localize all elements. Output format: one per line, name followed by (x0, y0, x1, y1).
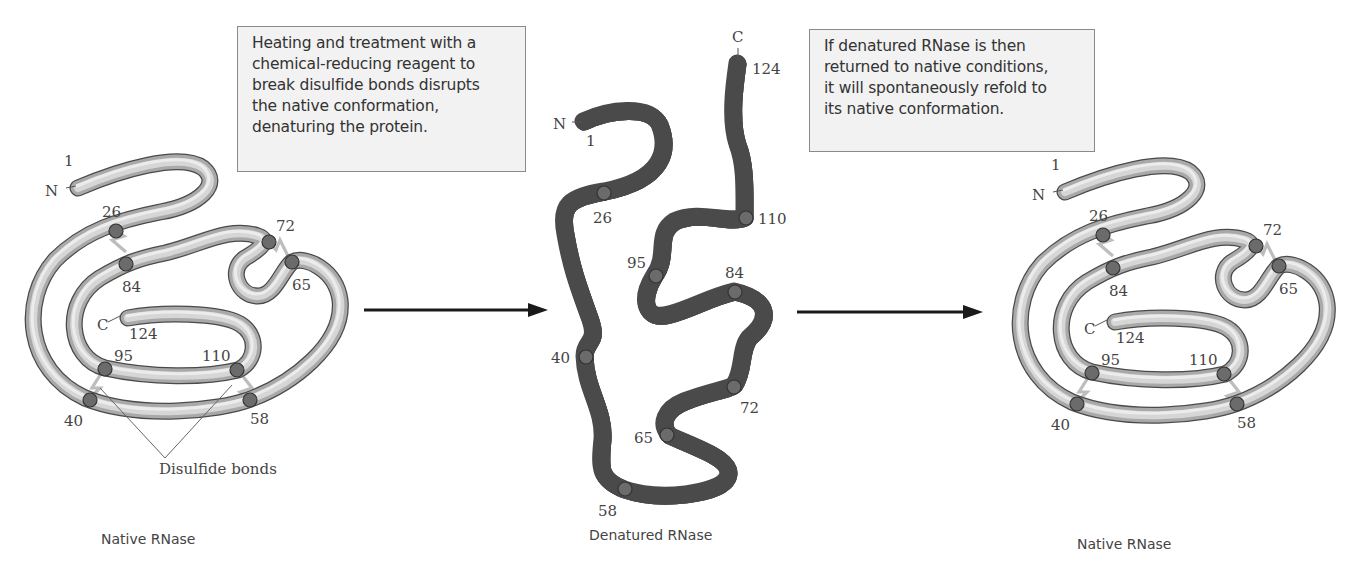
residue-label-110: 110 (1189, 351, 1218, 369)
cysteine-65 (1272, 259, 1286, 273)
cysteine-95 (1085, 366, 1099, 380)
cysteine-26 (1096, 228, 1110, 242)
cysteine-40 (579, 350, 593, 364)
cysteine-65 (660, 428, 674, 442)
residue-label-1: 1 (64, 152, 74, 170)
renaturation-arrow (797, 305, 983, 319)
native-rnase-left: 1 N 26 84 72 65 124 C 95 110 40 58 Disul… (32, 152, 340, 478)
denaturation-arrow (364, 303, 548, 317)
c-terminus-label: C (1084, 320, 1095, 338)
callout-line (100, 388, 165, 458)
residue-label-58: 58 (1237, 414, 1256, 432)
residue-label-26: 26 (1089, 207, 1108, 225)
c-terminus-label: C (732, 28, 743, 46)
residue-label-72: 72 (1263, 221, 1282, 239)
residue-label-26: 26 (593, 209, 612, 227)
cysteine-72 (262, 235, 276, 249)
caption-native-right: Native RNase (1077, 536, 1171, 552)
residue-label-110: 110 (202, 347, 231, 365)
n-terminus-label: N (553, 115, 566, 133)
residue-label-40: 40 (1051, 416, 1070, 434)
cysteine-26 (109, 224, 123, 238)
residue-label-40: 40 (551, 349, 570, 367)
residue-label-124: 124 (129, 325, 158, 343)
residue-label-1: 1 (586, 132, 596, 150)
residue-label-72: 72 (276, 217, 295, 235)
cysteine-110 (739, 211, 753, 225)
residue-label-84: 84 (725, 264, 744, 282)
cysteine-58 (243, 393, 257, 407)
residue-label-84: 84 (122, 278, 141, 296)
cysteine-110 (1217, 367, 1231, 381)
c-terminus-label: C (97, 316, 108, 334)
residue-label-110: 110 (758, 210, 787, 228)
residue-label-124: 124 (1116, 329, 1145, 347)
residue-label-72: 72 (740, 399, 759, 417)
residue-label-95: 95 (1101, 351, 1120, 369)
cysteine-58 (1230, 397, 1244, 411)
residue-label-95: 95 (627, 254, 646, 272)
cysteine-84 (1106, 261, 1120, 275)
caption-native-left: Native RNase (101, 531, 195, 547)
cysteine-40 (1070, 397, 1084, 411)
residue-label-58: 58 (250, 410, 269, 428)
cysteine-84 (119, 257, 133, 271)
cysteine-72 (1249, 239, 1263, 253)
n-terminus-label: N (1032, 186, 1045, 204)
residue-label-26: 26 (102, 203, 121, 221)
residue-label-58: 58 (598, 502, 617, 520)
residue-label-84: 84 (1109, 282, 1128, 300)
caption-denatured: Denatured RNase (589, 527, 712, 543)
n-terminus-label: N (45, 182, 58, 200)
residue-label-65: 65 (292, 276, 311, 294)
residue-label-65: 65 (1279, 280, 1298, 298)
cysteine-40 (83, 393, 97, 407)
denatured-rnase: N 1 C 124 26 110 95 84 40 72 65 58 (551, 28, 787, 520)
native-rnase-right: 1 N 26 84 72 65 124 C 95 110 40 58 (1019, 156, 1327, 434)
residue-label-40: 40 (64, 412, 83, 430)
callout-line (165, 385, 232, 458)
rnase-diagram: 1 N 26 84 72 65 124 C 95 110 40 58 Disul… (0, 0, 1350, 571)
cysteine-26 (597, 186, 611, 200)
cysteine-72 (727, 380, 741, 394)
residue-label-65: 65 (634, 429, 653, 447)
disulfide-bonds-label: Disulfide bonds (159, 460, 277, 478)
cysteine-65 (285, 255, 299, 269)
cysteine-95 (649, 269, 663, 283)
cysteine-110 (230, 363, 244, 377)
cysteine-95 (98, 362, 112, 376)
cysteine-58 (618, 482, 632, 496)
residue-label-1: 1 (1051, 156, 1061, 174)
cysteine-84 (728, 285, 742, 299)
residue-label-124: 124 (752, 60, 781, 78)
residue-label-95: 95 (114, 347, 133, 365)
